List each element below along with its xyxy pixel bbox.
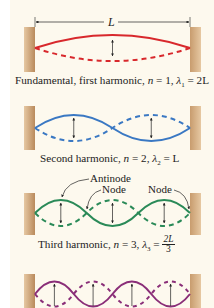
antinode-pointer <box>62 179 89 197</box>
caption-text: Second harmonic, <box>40 152 124 164</box>
fraction-denominator: 3 <box>166 245 171 254</box>
n-value: = 1, <box>153 74 176 86</box>
left-wall <box>24 27 35 72</box>
lambda-fraction: 2L3 <box>162 235 174 254</box>
lambda-value: = L <box>161 152 180 164</box>
left-wall <box>24 106 35 150</box>
right-wall <box>190 27 201 72</box>
lambda-value: = 2L <box>185 74 209 86</box>
length-label: L <box>108 15 115 30</box>
wave-solid <box>35 282 190 307</box>
caption-text: Fundamental, first harmonic, <box>15 74 148 86</box>
right-wall <box>190 106 201 150</box>
node-label-right: Node <box>148 183 172 195</box>
node-label-left: Node <box>102 183 126 195</box>
caption-harmonic-1: Fundamental, first harmonic, n = 1, λ1 =… <box>15 74 209 89</box>
left-wall <box>24 193 35 235</box>
n-value: = 3, <box>119 238 142 250</box>
harmonic-4-diagram <box>24 274 201 308</box>
node-left-pointer <box>87 190 101 209</box>
n-value: = 2, <box>129 152 152 164</box>
right-wall <box>190 193 201 235</box>
lambda-equals: = <box>151 238 163 250</box>
harmonic-2-diagram <box>24 106 201 150</box>
right-wall <box>190 274 201 308</box>
caption-text: Third harmonic, <box>38 238 114 250</box>
left-wall <box>24 274 35 308</box>
caption-harmonic-3: Third harmonic, n = 3, λ3 = 2L3 <box>38 236 175 255</box>
caption-harmonic-2: Second harmonic, n = 2, λ2 = L <box>40 152 179 167</box>
